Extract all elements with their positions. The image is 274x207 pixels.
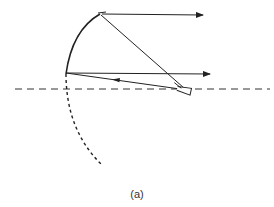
figure-caption: (a) xyxy=(0,188,274,200)
reflector-arc xyxy=(66,14,100,74)
reflector-top-edge xyxy=(98,12,106,13)
lower-incident-arrowhead xyxy=(112,78,120,82)
upper-reflected-ray xyxy=(102,14,203,15)
upper-incident-ray xyxy=(101,15,184,88)
lower-incident-ray xyxy=(66,73,180,89)
lower-reflected-ray xyxy=(66,73,210,74)
offset-reflector-diagram xyxy=(0,0,274,207)
reflector-extension-dashed xyxy=(66,74,102,165)
